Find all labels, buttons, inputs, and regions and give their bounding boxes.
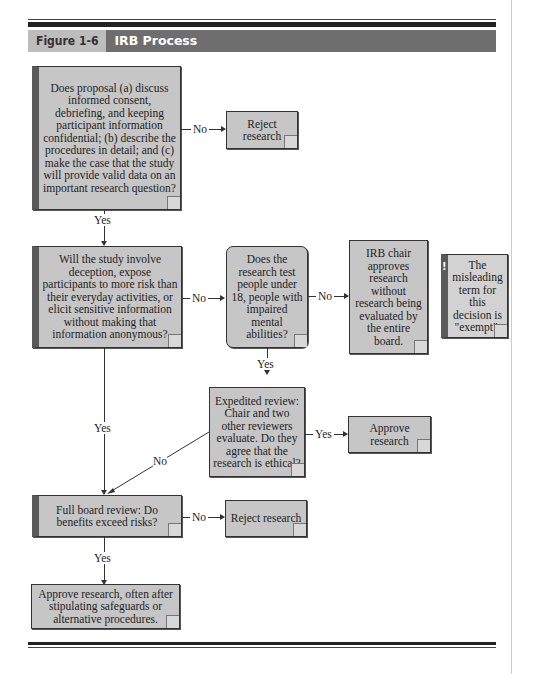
edge-exp-no	[0, 0, 544, 674]
node-text: Full board review: Do benefits exceed ri…	[43, 504, 171, 529]
node-text: Reject research	[231, 512, 302, 525]
corner-icon	[293, 523, 306, 536]
edge-label: Yes	[94, 552, 111, 564]
edge-label: No	[190, 511, 208, 523]
node-reject-research-2: Reject research	[225, 500, 307, 537]
corner-icon	[166, 615, 179, 628]
node-text: Approve research, often after stipulatin…	[36, 588, 175, 626]
node-full-board-review: Full board review: Do benefits exceed ri…	[32, 495, 182, 537]
corner-icon	[168, 523, 181, 536]
bottom-rule	[28, 642, 496, 645]
edge-label: No	[153, 455, 167, 467]
node-approve-with-safeguards: Approve research, often after stipulatin…	[31, 584, 180, 629]
bottom-rule-thin	[28, 647, 496, 648]
